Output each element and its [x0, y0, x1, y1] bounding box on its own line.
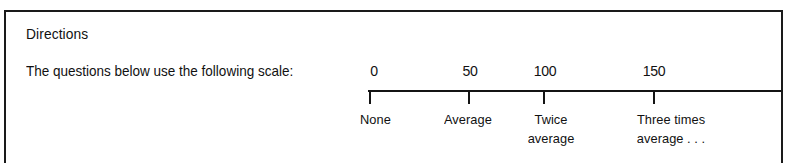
directions-heading: Directions: [26, 25, 88, 42]
scale-tick-50: [468, 90, 470, 104]
scale-anchor-twice-line2: average: [528, 129, 575, 148]
scale-tick-0: [369, 90, 371, 104]
scale-anchor-label-none: None: [360, 110, 391, 129]
scale-anchor-label-twice-average: Twice average: [528, 110, 575, 148]
scale-axis-line: [368, 90, 781, 92]
scale-tick-number-150: 150: [643, 62, 665, 79]
scale-anchor-twice-line1: Twice: [534, 112, 567, 127]
scale-tick-number-0: 0: [370, 62, 377, 79]
scale-intro-text: The questions below use the following sc…: [26, 62, 293, 79]
scale-anchor-three-times-line1: Three times: [637, 112, 705, 127]
scale-tick-number-100: 100: [534, 62, 556, 79]
scale-anchor-none-line1: None: [360, 112, 391, 127]
scale-anchor-label-average: Average: [444, 110, 492, 129]
scale-tick-number-50: 50: [463, 62, 478, 79]
scale-anchor-average-line1: Average: [444, 112, 492, 127]
scale-tick-150: [653, 90, 655, 104]
scale-anchor-three-times-line2: average . . .: [637, 129, 705, 148]
scale-anchor-label-three-times-average: Three times average . . .: [637, 110, 705, 148]
scale-tick-100: [543, 90, 545, 104]
